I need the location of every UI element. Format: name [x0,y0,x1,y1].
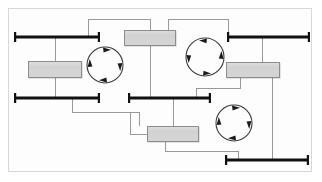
task-box-bottom-center[interactable] [147,126,199,142]
task-box-highlight [227,63,279,69]
task-box-highlight [148,127,198,133]
gateway-bar-top-left[interactable] [14,32,100,42]
task-box-top-center[interactable] [124,30,176,46]
task-box-left[interactable] [28,61,82,78]
gateway-bar-middle-right[interactable] [128,93,211,103]
task-box-right[interactable] [226,62,280,78]
task-box-highlight [29,62,81,69]
gateway-bar-bottom[interactable] [225,155,309,165]
bar-layer [0,0,322,182]
gateway-bar-top-right[interactable] [227,32,310,42]
gateway-bar-middle-left[interactable] [14,93,100,103]
diagram-canvas [0,0,322,182]
task-box-highlight [125,31,175,37]
